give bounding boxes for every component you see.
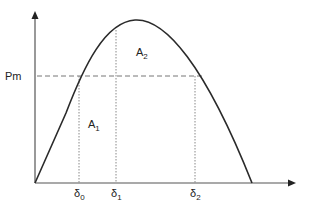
power-angle-diagram: Pm A1 A2 δ0 δ1 δ2 (0, 0, 309, 208)
x-axis-arrow-icon (288, 180, 296, 187)
area-a2-label: A2 (136, 46, 148, 61)
area-a1-label: A1 (88, 118, 100, 133)
delta1-label: δ1 (111, 187, 122, 202)
delta0-label: δ0 (74, 187, 85, 202)
pm-label: Pm (5, 70, 22, 82)
power-curve (35, 20, 252, 183)
y-axis-arrow-icon (32, 11, 39, 19)
delta2-label: δ2 (190, 187, 201, 202)
